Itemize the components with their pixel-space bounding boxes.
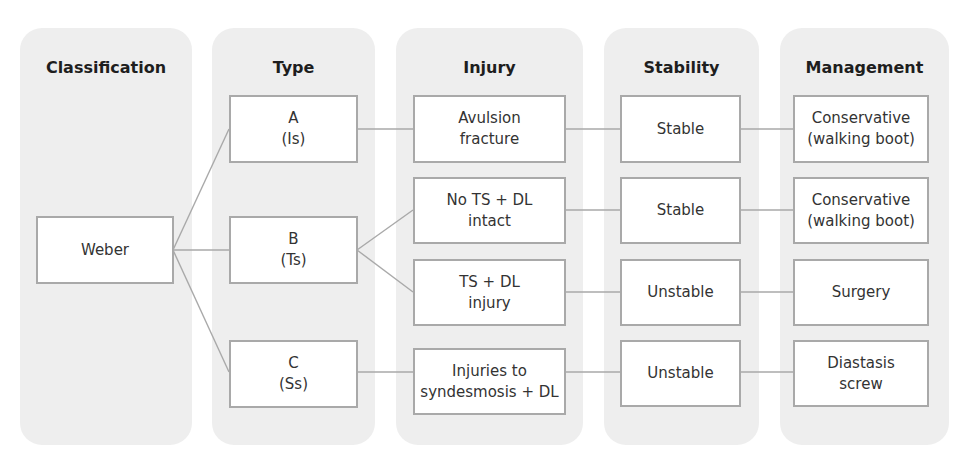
- node-type-c: C (Ss): [229, 340, 358, 408]
- node-stability-4: Unstable: [620, 340, 741, 407]
- node-type-a: A (Is): [229, 95, 358, 163]
- node-injury-avulsion: Avulsion fracture: [413, 95, 566, 163]
- node-management-4: Diastasis screw: [793, 340, 929, 407]
- node-weber: Weber: [36, 216, 174, 284]
- node-management-1: Conservative (walking boot): [793, 95, 929, 163]
- node-injury-ts-dl: TS + DL injury: [413, 259, 566, 326]
- node-injury-syndesmosis: Injuries to syndesmosis + DL: [413, 348, 566, 415]
- node-injury-no-ts-dl-intact: No TS + DL intact: [413, 177, 566, 244]
- node-management-2: Conservative (walking boot): [793, 177, 929, 244]
- node-stability-1: Stable: [620, 95, 741, 163]
- node-management-3: Surgery: [793, 259, 929, 326]
- node-stability-3: Unstable: [620, 259, 741, 326]
- node-stability-2: Stable: [620, 177, 741, 244]
- node-type-b: B (Ts): [229, 216, 358, 284]
